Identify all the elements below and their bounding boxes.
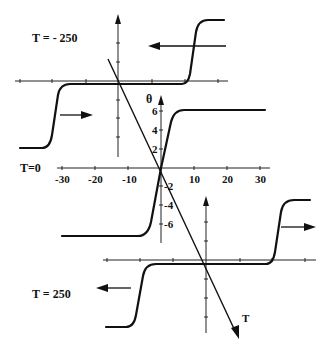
- theta-axis-arrow-icon: [158, 95, 164, 105]
- middle-panel-label: T=0: [20, 161, 41, 175]
- x-tick-label: 20: [222, 173, 234, 185]
- theta-axis-label: θ: [146, 92, 152, 106]
- top-y-axis-arrow-icon: [115, 14, 121, 24]
- bottom-curve: [106, 200, 310, 327]
- diagram-svg: T = - 250 θ T=0 -30 -20 -10 10 20 30 6: [0, 0, 328, 353]
- top-panel: T = - 250: [15, 14, 228, 157]
- x-tick-label: -20: [88, 173, 103, 185]
- bottom-panel-label: T = 250: [32, 287, 71, 301]
- bottom-arrow-left-icon: [96, 284, 108, 292]
- t-axis-label: T: [242, 312, 250, 324]
- y-tick-label: -6: [164, 218, 174, 230]
- x-tick-label: 10: [189, 173, 201, 185]
- diagram-canvas: T = - 250 θ T=0 -30 -20 -10 10 20 30 6: [0, 0, 328, 353]
- x-tick-label: 30: [255, 173, 267, 185]
- y-tick-label: 6: [152, 105, 158, 117]
- top-arrow-left-icon: [148, 42, 160, 50]
- bottom-y-axis-arrow-icon: [203, 196, 209, 206]
- x-tick-label: -30: [55, 173, 70, 185]
- middle-panel: θ T=0 -30 -20 -10 10 20 30 6 4 2 -2 -4 -…: [20, 92, 270, 243]
- bottom-panel: T = 250: [32, 196, 316, 333]
- x-tick-label: -10: [122, 173, 137, 185]
- y-tick-label: -4: [164, 199, 174, 211]
- bottom-arrow-right-icon: [304, 223, 316, 231]
- y-tick-label: 4: [152, 124, 158, 136]
- y-tick-label: 2: [152, 143, 158, 155]
- t-axis-arrow-icon: [231, 325, 239, 339]
- t-axis-line: [108, 59, 236, 333]
- top-panel-label: T = - 250: [32, 31, 78, 45]
- top-arrow-right-icon: [81, 111, 93, 119]
